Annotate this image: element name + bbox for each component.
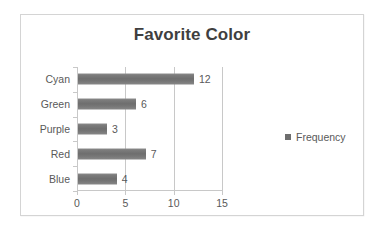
plot-area: Blue4Red7Purple3Green6Cyan12 051015 <box>77 67 222 191</box>
bar <box>78 99 136 110</box>
legend-label: Frequency <box>296 131 346 143</box>
legend-color-swatch <box>285 134 291 140</box>
x-axis-tick <box>222 191 223 195</box>
bar-value-label: 7 <box>151 148 157 160</box>
bar <box>78 173 117 184</box>
x-axis-tick-label: 5 <box>122 197 128 209</box>
chart-title: Favorite Color <box>21 25 363 45</box>
x-axis-tick <box>125 191 126 195</box>
bar-row: Blue4 <box>77 166 222 191</box>
bar-row: Cyan12 <box>77 67 222 92</box>
x-axis-tick <box>77 191 78 195</box>
bar-row: Red7 <box>77 141 222 166</box>
x-axis-tick-label: 0 <box>74 197 80 209</box>
y-axis-category-label: Red <box>51 148 70 160</box>
x-axis-tick <box>174 191 175 195</box>
y-axis-category-label: Blue <box>49 173 70 185</box>
bar <box>78 148 146 159</box>
y-axis-category-label: Cyan <box>45 73 70 85</box>
bar <box>78 123 107 134</box>
bar <box>78 74 194 85</box>
x-axis-tick-label: 15 <box>216 197 228 209</box>
gridline <box>222 67 223 191</box>
bar-row: Green6 <box>77 92 222 117</box>
x-axis-tick-label: 10 <box>168 197 180 209</box>
bar-row: Purple3 <box>77 117 222 142</box>
bar-value-label: 3 <box>112 123 118 135</box>
y-axis-category-label: Green <box>41 98 70 110</box>
bar-value-label: 4 <box>122 173 128 185</box>
chart-frame: Favorite Color Blue4Red7Purple3Green6Cya… <box>20 14 364 216</box>
bar-value-label: 6 <box>141 98 147 110</box>
y-axis-category-label: Purple <box>40 123 70 135</box>
bar-value-label: 12 <box>199 73 211 85</box>
chart-legend: Frequency <box>285 131 346 143</box>
